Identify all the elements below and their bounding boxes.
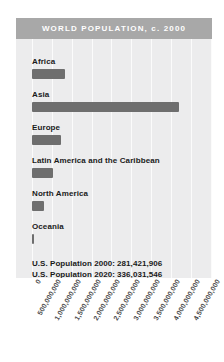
annotation-us-population-2000: U.S. Population 2000: 281,421,906 [32,259,162,270]
bar-category-label: Asia [32,90,49,99]
chart-title: WORLD POPULATION, c. 2000 [42,24,186,33]
annotation-block: U.S. Population 2000: 281,421,906 U.S. P… [32,259,162,278]
bar-category-label: Latin America and the Caribbean [32,156,160,165]
annotation-us-population-2020: U.S. Population 2020: 336,031,546 [32,270,162,279]
gridline [191,39,192,278]
bar-category-label: Oceania [32,222,64,231]
bar [32,234,34,244]
bar-category-label: North America [32,189,88,198]
bar-category-label: Europe [32,123,60,132]
bar [32,69,65,79]
bar [32,201,44,211]
gridline [211,39,212,278]
chart-panel: WORLD POPULATION, c. 2000 AfricaAsiaEuro… [16,18,212,278]
bar [32,102,179,112]
x-tick-label: 0 [34,278,42,285]
bar-category-label: Africa [32,57,55,66]
bar [32,135,61,145]
chart-title-bar: WORLD POPULATION, c. 2000 [16,18,212,39]
x-axis-tick-labels: 0500,000,0001,000,000,0001,500,000,0002,… [0,278,224,362]
plot-area: AfricaAsiaEuropeLatin America and the Ca… [16,39,212,278]
bar [32,168,53,178]
gridline [171,39,172,278]
